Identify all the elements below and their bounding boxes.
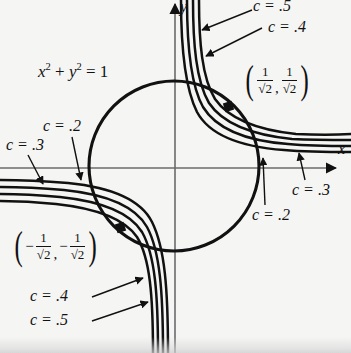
curve-label-bottom-c5: c = .5 [30,312,68,328]
curve-label-left-c3: c = .3 [6,137,44,153]
leader-bottom-c5 [92,302,148,321]
curve-label-top-c5: c = .5 [253,0,291,14]
minus-sign-y: − [59,239,67,254]
curve-label-right-c3: c = .3 [292,182,330,198]
minus-sign-x: − [25,239,33,254]
equation-rhs: = 1 [86,62,108,81]
curve-c02-q3 [0,180,168,353]
unit-circle [89,81,259,251]
fraction-denominator: √2 [282,82,298,96]
fraction-numerator: 1 [283,65,296,79]
leader-bottom-c4 [92,278,143,297]
curve-c04-q3 [0,194,158,353]
equation-plus-sign: + [55,62,65,81]
open-paren: ( [15,228,23,264]
leader-right-c2 [263,158,265,205]
leader-arrows [28,10,305,321]
fraction-denominator: √2 [70,248,86,262]
fraction-numerator: 1 [37,231,50,245]
point-label-lower-left: ( − 1 √2 , − 1 √2 ) [12,228,100,264]
figure-container: y x x2 + y2 = 1 ( 1 √2 , 1 √2 ) ( − 1 √2… [0,0,351,353]
curve-label-right-c2: c = .2 [252,207,290,223]
curve-label-left-c2: c = .2 [43,118,81,134]
circle-equation-label: x2 + y2 = 1 [38,62,108,80]
equation-y-exponent: 2 [76,61,81,72]
fraction-denominator: √2 [36,248,52,262]
fraction-numerator: 1 [259,65,272,79]
close-paren: ) [89,228,97,264]
curve-label-bottom-c4: c = .4 [30,288,68,304]
fraction-numerator: 1 [71,231,84,245]
leader-top-c5 [202,10,252,30]
fraction-y-lower-left: 1 √2 [70,231,86,261]
leader-right-c3 [299,153,305,180]
point-label-upper-right: ( 1 √2 , 1 √2 ) [243,62,312,98]
fraction-x-upper-right: 1 √2 [257,65,273,95]
equation-x-exponent: 2 [46,61,51,72]
leader-left-c2 [72,137,81,180]
curve-c05-q3 [0,201,153,353]
fraction-denominator: √2 [257,82,273,96]
coordinate-comma: , [275,81,279,98]
curve-label-top-c4: c = .4 [268,19,306,35]
close-paren: ) [301,62,309,98]
hyperbola-branches-quadrant-3 [0,180,168,353]
curve-c03-q3 [0,187,163,353]
equation-x-term: x [38,62,46,81]
open-paren: ( [246,62,254,98]
x-axis-label: x [338,141,345,157]
y-axis-label: y [180,0,187,15]
fraction-y-upper-right: 1 √2 [282,65,298,95]
leader-top-c4 [206,28,262,56]
coordinate-comma: , [53,247,57,264]
fraction-x-lower-left: 1 √2 [36,231,52,261]
